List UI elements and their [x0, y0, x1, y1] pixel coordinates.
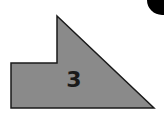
diagram-canvas: 3	[0, 0, 164, 121]
corner-circle-marker	[147, 0, 164, 15]
step-shape	[11, 16, 154, 108]
shape-number-label: 3	[62, 67, 86, 93]
diagram-svg	[0, 0, 164, 121]
